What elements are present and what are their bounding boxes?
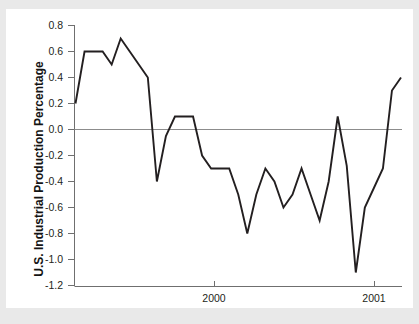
y-tick-label-2: 0.4 [48, 71, 63, 83]
data-series-line [76, 39, 402, 273]
y-axis-tick-marks [68, 26, 74, 286]
y-tick-label-1: 0.6 [48, 45, 63, 57]
y-tick-label-10: -1.2 [45, 279, 63, 291]
y-tick-label-9: -1.0 [45, 253, 63, 265]
x-tick-label-2001: 2001 [362, 292, 386, 304]
y-axis-title-group: U.S. Industrial Production Percentage [32, 61, 46, 277]
chart-svg: U.S. Industrial Production Percentage 0.… [6, 9, 413, 308]
y-tick-label-8: -0.8 [45, 227, 63, 239]
x-tick-label-2000: 2000 [202, 292, 226, 304]
y-tick-label-3: 0.2 [48, 97, 63, 109]
x-axis-tick-labels: 2000 2001 [202, 292, 386, 304]
y-axis-tick-labels: 0.8 0.6 0.4 0.2 0.0 -0.2 -0.4 -0.6 -0.8 … [45, 19, 63, 291]
y-tick-label-5: -0.2 [45, 149, 63, 161]
y-axis-title: U.S. Industrial Production Percentage [32, 61, 46, 277]
y-tick-label-7: -0.6 [45, 201, 63, 213]
y-tick-label-6: -0.4 [45, 175, 63, 187]
y-tick-label-0: 0.8 [48, 19, 63, 31]
figure-card: U.S. Industrial Production Percentage 0.… [6, 9, 413, 308]
line-chart: U.S. Industrial Production Percentage 0.… [6, 9, 413, 308]
y-tick-label-4: 0.0 [48, 123, 63, 135]
